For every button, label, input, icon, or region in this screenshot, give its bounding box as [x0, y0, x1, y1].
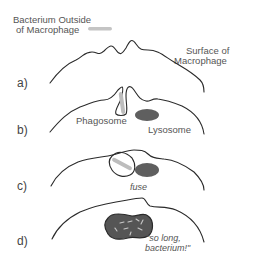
lysosome-c	[135, 163, 159, 177]
so-long-label-line2: bacterium!"	[145, 243, 191, 253]
step-d-label: d)	[17, 234, 28, 248]
surface-label-line2: Macrophage	[174, 55, 227, 66]
bacterium-outside-label-line2: of Macrophage	[16, 24, 79, 35]
membrane-c	[51, 150, 204, 190]
step-c-label: c)	[17, 179, 27, 193]
step-b-label: b)	[17, 123, 28, 137]
lysosome-b	[135, 109, 159, 121]
so-long-label-line1: "so long,	[146, 233, 181, 243]
phagosome-label: Phagosome	[76, 115, 127, 126]
bacterium-outside	[88, 27, 112, 31]
step-a-label: a)	[17, 76, 28, 90]
fuse-label: fuse	[130, 182, 147, 192]
phagocytosis-diagram: Bacterium Outside of Macrophage Surface …	[0, 0, 254, 263]
membrane-a	[50, 41, 204, 92]
lysosome-label: Lysosome	[148, 124, 191, 135]
bacterium-phagosome-c	[111, 157, 132, 171]
